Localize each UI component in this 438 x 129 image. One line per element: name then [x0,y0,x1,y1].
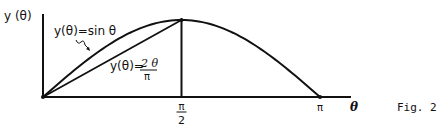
sine-annotation: y(θ)=sin θ [54,24,116,38]
x-axis-label: θ [350,100,358,114]
pi-point [318,95,322,99]
x-tick-label-pi-over-2-numerator: π [178,101,184,112]
chord-annotation-prefix: y(θ)= [110,59,144,73]
annotation-arrow [76,40,89,49]
chord-annotation-numerator: 2 θ [140,57,158,70]
x-tick-label-pi: π [317,102,323,113]
figure-label: Fig. 2 [397,101,437,114]
origin-point [41,95,45,99]
y-axis-label: y (θ) [4,9,32,23]
chart: y (θ) y(θ)=sin θ y(θ)= 2 θ π π 2 π θ Fig… [0,0,438,129]
chord-annotation-denominator: π [144,71,150,82]
x-tick-label-pi-over-2-denominator: 2 [178,114,185,127]
peak-point [180,18,184,22]
